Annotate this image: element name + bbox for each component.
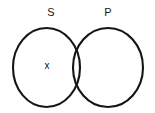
venn-diagram-canvas: S P x [0, 0, 155, 113]
region-marker-x: x [45, 60, 50, 71]
set-label-right: P [104, 6, 111, 18]
set-label-left: S [47, 6, 54, 18]
venn-diagram-figure: S P x [0, 0, 155, 113]
